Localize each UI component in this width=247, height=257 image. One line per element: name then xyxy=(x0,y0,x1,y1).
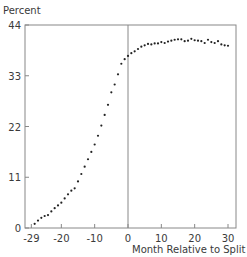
data-points xyxy=(34,38,230,225)
data-point xyxy=(94,143,96,145)
data-point xyxy=(197,40,199,42)
data-point xyxy=(67,193,69,195)
data-point xyxy=(210,41,212,43)
data-point xyxy=(134,50,136,52)
data-point xyxy=(217,40,219,42)
data-point xyxy=(220,43,222,45)
x-tick-label: 30 xyxy=(222,233,235,244)
data-point xyxy=(194,39,196,41)
data-point xyxy=(170,40,172,42)
data-point xyxy=(57,204,59,206)
data-point xyxy=(37,220,39,222)
data-point xyxy=(114,83,116,85)
y-tick-label: 44 xyxy=(8,20,21,31)
data-point xyxy=(124,58,126,60)
x-axis-title: Month Relative to Split xyxy=(132,244,245,255)
data-point xyxy=(77,180,79,182)
data-point xyxy=(54,207,56,209)
data-point xyxy=(34,223,36,225)
data-point xyxy=(140,46,142,48)
data-point xyxy=(84,166,86,168)
data-point xyxy=(164,42,166,44)
x-axis-ticks: -29-20-100102030 xyxy=(23,224,234,244)
scatter-chart: Percent 011223344 -29-20-100102030 Month… xyxy=(0,0,247,257)
data-point xyxy=(64,197,66,199)
data-point xyxy=(60,202,62,204)
data-point xyxy=(80,173,82,175)
data-point xyxy=(120,63,122,65)
data-point xyxy=(187,40,189,42)
x-tick-label: -20 xyxy=(53,233,69,244)
y-tick-label: 33 xyxy=(8,71,21,82)
data-point xyxy=(207,39,209,41)
data-point xyxy=(104,114,106,116)
data-point xyxy=(160,41,162,43)
data-point xyxy=(204,42,206,44)
data-point xyxy=(90,151,92,153)
data-point xyxy=(130,52,132,54)
data-point xyxy=(200,40,202,42)
data-point xyxy=(110,91,112,93)
y-tick-label: 0 xyxy=(15,223,21,234)
data-point xyxy=(214,42,216,44)
data-point xyxy=(227,45,229,47)
data-point xyxy=(40,217,42,219)
data-point xyxy=(174,39,176,41)
data-point xyxy=(150,43,152,45)
y-tick-label: 22 xyxy=(8,122,21,133)
x-tick-label: 0 xyxy=(125,233,131,244)
y-axis-title: Percent xyxy=(3,5,41,16)
data-point xyxy=(180,38,182,40)
data-point xyxy=(177,38,179,40)
data-point xyxy=(144,44,146,46)
data-point xyxy=(147,43,149,45)
data-point xyxy=(47,214,49,216)
data-point xyxy=(190,38,192,40)
y-axis-ticks: 011223344 xyxy=(8,20,29,234)
data-point xyxy=(127,55,129,57)
data-point xyxy=(167,41,169,43)
plot-frame xyxy=(25,25,236,228)
data-point xyxy=(224,44,226,46)
data-point xyxy=(154,42,156,44)
data-point xyxy=(74,187,76,189)
data-point xyxy=(137,48,139,50)
data-point xyxy=(107,104,109,106)
y-tick-label: 11 xyxy=(8,172,21,183)
data-point xyxy=(100,124,102,126)
data-point xyxy=(97,135,99,137)
data-point xyxy=(184,40,186,42)
data-point xyxy=(157,42,159,44)
data-point xyxy=(70,190,72,192)
data-point xyxy=(50,210,52,212)
x-tick-label: 20 xyxy=(188,233,201,244)
x-tick-label: -29 xyxy=(23,233,39,244)
data-point xyxy=(87,158,89,160)
x-tick-label: 10 xyxy=(155,233,168,244)
x-tick-label: -10 xyxy=(86,233,102,244)
data-point xyxy=(44,215,46,217)
data-point xyxy=(117,73,119,75)
